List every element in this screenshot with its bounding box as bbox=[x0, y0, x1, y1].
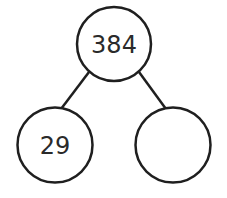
part-node-right[interactable] bbox=[136, 108, 211, 183]
part-left-value: 29 bbox=[40, 132, 71, 160]
whole-node: 384 bbox=[77, 7, 151, 81]
connector-right bbox=[139, 72, 166, 109]
whole-value: 384 bbox=[91, 31, 137, 59]
connector-left bbox=[61, 72, 89, 109]
number-bond-diagram: 384 29 bbox=[0, 0, 227, 198]
part-node-left: 29 bbox=[18, 108, 93, 183]
